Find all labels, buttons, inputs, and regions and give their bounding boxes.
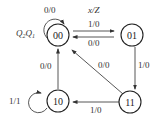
label-00-00: 0/0 (44, 5, 56, 15)
label-01-11: 1/0 (138, 60, 150, 70)
label-11-10: 1/0 (90, 105, 102, 115)
label-10-00: 0/0 (40, 61, 52, 71)
state-01: 01 (121, 24, 143, 46)
svg-text:10: 10 (53, 96, 63, 107)
svg-text:01: 01 (127, 30, 137, 41)
svg-text:11: 11 (125, 97, 135, 108)
state-11: 11 (119, 91, 141, 113)
state-00: 00 (47, 24, 69, 46)
state-var-label: Q2Q1 (16, 28, 35, 39)
io-label: x/Z (87, 5, 100, 15)
label-01-00: 0/0 (88, 38, 100, 48)
edge-11-00 (72, 50, 123, 94)
svg-text:00: 00 (53, 30, 63, 41)
state-diagram: 00 01 10 11 0/0 Q2Q1 x/Z 1/0 0/0 1/0 0/0… (0, 0, 157, 134)
edge-10-10 (29, 93, 47, 113)
state-10: 10 (47, 90, 69, 112)
label-10-10: 1/1 (9, 96, 21, 106)
label-00-01: 1/0 (88, 19, 100, 29)
label-11-00: 0/0 (98, 60, 110, 70)
